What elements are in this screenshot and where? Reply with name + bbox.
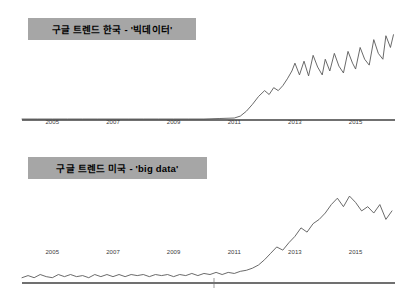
x-tick-label: 2007 bbox=[106, 249, 120, 255]
line-plot-usa bbox=[0, 171, 407, 291]
x-tick-label: 2005 bbox=[45, 119, 59, 125]
x-tick-label: 2011 bbox=[228, 249, 241, 255]
x-tick-label: 2005 bbox=[45, 249, 59, 255]
plot-area-korea bbox=[0, 16, 407, 121]
x-tick-label: 2007 bbox=[106, 119, 120, 125]
x-tick-label: 2015 bbox=[349, 249, 363, 255]
line-plot-korea bbox=[0, 16, 407, 121]
x-axis-ticks-usa: 200520072009201120132015 bbox=[0, 249, 407, 263]
chart-panel-usa: 구글 트렌드 미국 - 'big data' 20052007200920112… bbox=[0, 143, 407, 285]
x-tick-label: 2009 bbox=[167, 119, 181, 125]
x-tick-label: 2013 bbox=[288, 119, 302, 125]
x-tick-label: 2009 bbox=[167, 249, 181, 255]
x-tick-label: 2013 bbox=[288, 249, 302, 255]
plot-area-usa bbox=[0, 171, 407, 291]
x-tick-label: 2015 bbox=[349, 119, 363, 125]
trend-line-usa bbox=[22, 196, 392, 278]
x-tick-label: 2011 bbox=[228, 119, 241, 125]
x-axis-ticks-korea: 200520072009201120132015 bbox=[0, 119, 407, 133]
trend-line-korea bbox=[22, 35, 393, 119]
chart-panel-korea: 구글 트렌드 한국 - '빅데이터' 200520072009201120132… bbox=[0, 0, 407, 143]
